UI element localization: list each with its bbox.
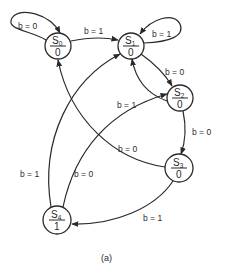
edge-label-s2-s3: b = 0 [192, 127, 211, 137]
edge-label-s3-s4: b = 1 [143, 213, 162, 223]
edge-label-s1-s2: b = 0 [165, 67, 184, 77]
state-s3-output: 0 [176, 169, 182, 180]
state-s3: S3 0 [165, 154, 193, 182]
state-s0: S0 0 [45, 33, 71, 59]
edge-s3-s0 [58, 60, 165, 167]
figure-caption: (a) [101, 253, 112, 263]
state-s1-output: 0 [128, 47, 134, 58]
state-diagram: b = 0 b = 1 b = 1 b = 0 b = 1 b = 0 b = … [0, 0, 226, 274]
edge-s4-s1 [49, 54, 120, 207]
edge-label-s1-s1: b = 1 [152, 29, 171, 39]
state-s4-output: 1 [54, 221, 60, 232]
state-s2-output: 0 [177, 99, 183, 110]
edge-s2-s3 [181, 111, 185, 154]
state-s0-output: 0 [55, 47, 61, 58]
edge-s0-s1 [71, 38, 118, 41]
state-s4: S4 1 [43, 206, 71, 234]
edge-label-s0-s0: b = 0 [18, 21, 37, 31]
edge-label-s0-s1: b = 1 [84, 26, 103, 36]
edge-label-s4-s2: b = 0 [74, 169, 93, 179]
state-s1: S1 0 [118, 33, 144, 59]
edge-s2-s1 [132, 59, 167, 101]
edge-label-s3-s0: b = 0 [118, 144, 137, 154]
edge-label-s4-s1: b = 1 [20, 169, 39, 179]
state-s2: S2 0 [167, 85, 193, 111]
edge-label-s2-s1: b = 1 [117, 100, 136, 110]
